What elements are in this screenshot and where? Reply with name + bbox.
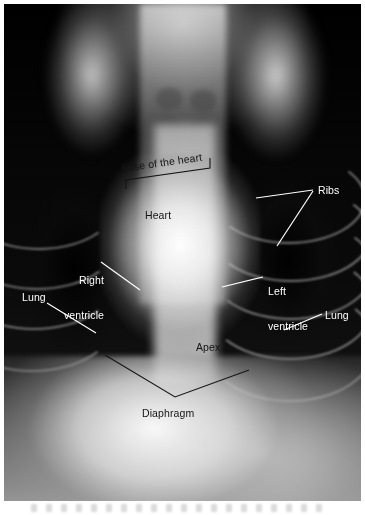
label-left-ventricle: Left ventricle xyxy=(268,263,330,355)
caption-smudge xyxy=(28,504,328,512)
label-right-ventricle-line1: Right xyxy=(42,275,104,287)
label-right-ventricle: Right ventricle xyxy=(42,252,104,344)
label-ribs: Ribs xyxy=(318,185,339,197)
label-left-ventricle-line1: Left xyxy=(268,286,330,298)
label-lung-right: Lung xyxy=(325,310,349,322)
label-diaphragm: Diaphragm xyxy=(142,408,194,420)
label-right-ventricle-line2: ventricle xyxy=(42,310,104,322)
label-apex: Apex xyxy=(196,342,220,354)
xray-figure: Base of the heart Heart Ribs Right ventr… xyxy=(0,0,365,515)
label-heart: Heart xyxy=(145,210,171,222)
label-left-ventricle-line2: ventricle xyxy=(268,321,330,333)
label-lung-left: Lung xyxy=(22,292,46,304)
